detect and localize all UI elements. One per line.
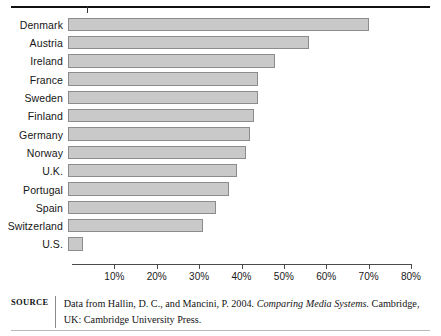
top-rule-tick [87, 6, 88, 13]
source-note: SOURCE Data from Hallin, D. C., and Manc… [11, 296, 430, 328]
bar-track [68, 53, 441, 71]
bar-track [68, 162, 441, 180]
source-text: Data from Hallin, D. C., and Mancini, P.… [64, 296, 430, 328]
chart-row: U.K. [0, 162, 441, 180]
category-label: Ireland [0, 56, 68, 67]
category-label: Finland [0, 111, 68, 122]
bar-track [68, 236, 441, 254]
chart-row: Ireland [0, 53, 441, 71]
x-axis-tick-label: 30% [189, 271, 209, 282]
bottom-divider-rule [11, 330, 430, 331]
x-axis-tick [369, 264, 370, 269]
category-label: Sweden [0, 93, 68, 104]
chart-row: U.S. [0, 236, 441, 254]
x-axis-tick-label: 70% [359, 271, 379, 282]
x-axis-tick [326, 264, 327, 269]
category-label: France [0, 75, 68, 86]
bar [68, 109, 254, 122]
source-divider [55, 296, 56, 328]
category-label: Denmark [0, 20, 68, 31]
bar [68, 182, 229, 195]
category-label: U.K. [0, 166, 68, 177]
bar [68, 219, 203, 232]
x-axis-tick [199, 264, 200, 269]
bar [68, 201, 216, 214]
bar [68, 36, 309, 49]
category-label: Spain [0, 203, 68, 214]
x-axis: 10%20%30%40%50%60%70%80% [0, 264, 441, 290]
bar [68, 237, 83, 250]
bar [68, 54, 275, 67]
source-label: SOURCE [11, 296, 55, 307]
category-label: Portugal [0, 185, 68, 196]
bar-chart-figure: DenmarkAustriaIrelandFranceSwedenFinland… [0, 0, 441, 336]
x-axis-tick [242, 264, 243, 269]
x-axis-tick [411, 264, 412, 269]
bar-track [68, 126, 441, 144]
source-title-italic: Comparing Media Systems. [257, 298, 369, 309]
bar [68, 127, 250, 140]
bar [68, 91, 258, 104]
chart-row: Denmark [0, 16, 441, 34]
category-label: Austria [0, 38, 68, 49]
bar-track [68, 16, 441, 34]
x-axis-tick-label: 20% [147, 271, 167, 282]
chart-row: Switzerland [0, 217, 441, 235]
bar-track [68, 34, 441, 52]
x-axis-tick [284, 264, 285, 269]
bar-track [68, 144, 441, 162]
bar-track [68, 89, 441, 107]
top-divider-rule [11, 6, 430, 8]
source-text-part1: Data from Hallin, D. C., and Mancini, P.… [64, 298, 257, 309]
bar-track [68, 217, 441, 235]
x-axis-tick-label: 60% [316, 271, 336, 282]
chart-row: Norway [0, 144, 441, 162]
chart-row: Finland [0, 107, 441, 125]
x-axis-tick-label: 50% [274, 271, 294, 282]
bar-track [68, 107, 441, 125]
chart-plot-area: DenmarkAustriaIrelandFranceSwedenFinland… [0, 16, 441, 264]
bar [68, 18, 369, 31]
bar [68, 164, 237, 177]
bar-track [68, 71, 441, 89]
x-axis-tick [157, 264, 158, 269]
chart-row: Germany [0, 126, 441, 144]
category-label: Norway [0, 148, 68, 159]
chart-row: Portugal [0, 181, 441, 199]
x-axis-tick [114, 264, 115, 269]
bar-track [68, 181, 441, 199]
x-axis-tick-label: 80% [401, 271, 421, 282]
chart-row: Sweden [0, 89, 441, 107]
bar [68, 72, 258, 85]
category-label: U.S. [0, 239, 68, 250]
bar-track [68, 199, 441, 217]
bar [68, 146, 246, 159]
chart-row: France [0, 71, 441, 89]
category-label: Switzerland [0, 221, 68, 232]
category-label: Germany [0, 130, 68, 141]
x-axis-tick-label: 10% [104, 271, 124, 282]
chart-row: Spain [0, 199, 441, 217]
x-axis-tick-label: 40% [231, 271, 251, 282]
chart-row: Austria [0, 34, 441, 52]
